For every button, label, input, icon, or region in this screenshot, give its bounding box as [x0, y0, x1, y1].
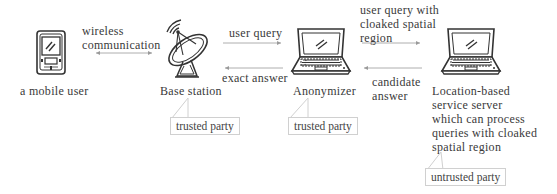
pda-icon [36, 30, 66, 75]
wireless-label-line1: wireless [82, 25, 124, 38]
anonymizer-trust-badge: trusted party [288, 117, 358, 135]
base-station-trust-badge: trusted party [170, 117, 240, 135]
satellite-dish-icon [163, 18, 213, 80]
candidate-answer-label-line1: candidate [372, 76, 421, 89]
lbs-server-label-line3: which can process [432, 113, 525, 126]
lbs-server-label-line1: Location-based [432, 85, 510, 98]
anonymizer-callout-pointer [288, 96, 328, 118]
user-query-label: user query [229, 27, 282, 40]
exact-answer-label: exact answer [222, 72, 288, 85]
lbs-server-trust-badge: untrusted party [425, 168, 506, 186]
mobile-user-label: a mobile user [20, 85, 89, 98]
user-query-arrow [223, 40, 283, 46]
candidate-answer-label-line2: answer [372, 90, 408, 103]
lbs-server-label-line4: queries with cloaked [432, 127, 537, 140]
base-station-callout-pointer [170, 96, 210, 118]
candidate-answer-arrow [362, 65, 424, 71]
laptop-icon [440, 27, 502, 77]
cloaked-query-arrow [362, 40, 422, 46]
cloaked-query-label-line1: user query with [360, 4, 439, 17]
lbs-server-label-line2: service server [432, 99, 503, 112]
wireless-arrow [94, 50, 154, 56]
laptop-icon [290, 27, 352, 77]
cloaked-query-label-line2: cloaked spatial [360, 18, 436, 31]
